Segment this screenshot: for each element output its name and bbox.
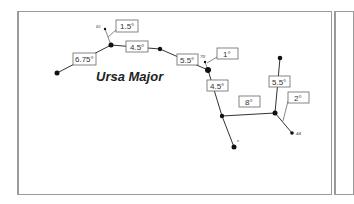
angle-label: 1.5° bbox=[120, 22, 134, 31]
star-icon bbox=[205, 67, 211, 73]
star-icon bbox=[232, 145, 237, 150]
star-icon bbox=[55, 71, 60, 76]
stars bbox=[55, 28, 294, 150]
star-icon bbox=[204, 61, 206, 63]
angle-label: 8° bbox=[245, 98, 253, 107]
angle-label: 4.5° bbox=[210, 82, 224, 91]
star-icon bbox=[273, 111, 278, 116]
star-label: 81 bbox=[96, 24, 101, 29]
star-icon bbox=[109, 43, 114, 48]
constellation-lines bbox=[57, 29, 292, 147]
star-icon bbox=[158, 47, 162, 51]
star-icon bbox=[104, 28, 106, 30]
star-label: 70 bbox=[200, 54, 206, 59]
constellation-title: Ursa Major bbox=[96, 69, 164, 84]
angle-label: 2° bbox=[294, 94, 302, 103]
star-icon bbox=[290, 131, 294, 135]
angle-label: 5.5° bbox=[272, 78, 286, 87]
star-icon bbox=[278, 56, 283, 61]
star-label: z bbox=[236, 138, 239, 143]
star-icon bbox=[220, 114, 224, 118]
angle-labels: 1.5° 4.5° 6.75° 5.5° 1° 4.5° 8° 5.5° 2° bbox=[75, 22, 302, 107]
angle-label: 6.75° bbox=[75, 55, 94, 64]
angle-label: 1° bbox=[223, 50, 231, 59]
angle-label: 5.5° bbox=[180, 56, 194, 65]
angle-label: 4.5° bbox=[130, 43, 144, 52]
star-label: 44 bbox=[296, 131, 302, 136]
